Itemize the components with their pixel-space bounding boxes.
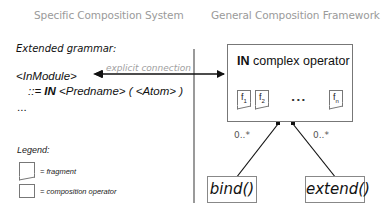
fragment-fn[interactable]: fn	[329, 90, 343, 105]
grammar-rule-lhs: <InModule>	[16, 70, 77, 82]
in-complex-operator-box[interactable]: IN complex operator f1 f2 ... fn	[227, 44, 353, 122]
legend-title: Legend:	[17, 145, 50, 155]
grammar-title: Extended grammar:	[16, 43, 116, 54]
multiplicity-extend: 0..*	[313, 130, 329, 140]
heading-general-composition-framework: General Composition Framework	[211, 9, 380, 21]
section-divider	[193, 49, 195, 203]
fragment-f2[interactable]: f2	[255, 90, 269, 105]
heading-specific-composition-system: Specific Composition System	[34, 9, 184, 21]
legend-composition-operator-label: = composition operator	[40, 187, 117, 196]
fragment-f1[interactable]: f1	[237, 90, 251, 105]
extend-operator-box[interactable]: extend()	[305, 176, 365, 203]
operator-keyword: IN	[237, 54, 250, 68]
legend-fragment-icon	[19, 162, 35, 176]
grammar-rule-body: <Predname> ( <Atom> )	[56, 85, 183, 97]
legend-fragment-label: = fragment	[40, 167, 76, 176]
explicit-connection-label: explicit connection	[106, 63, 191, 73]
fragment-ellipsis: ...	[291, 91, 307, 104]
grammar-rule-prefix: ::=	[28, 85, 44, 97]
operator-title: IN complex operator	[237, 54, 350, 68]
grammar-ellipsis: ...	[17, 101, 27, 113]
legend-composition-operator-icon	[19, 184, 35, 198]
operator-label: complex operator	[250, 54, 350, 68]
multiplicity-bind: 0..*	[234, 130, 250, 140]
grammar-rule-keyword: IN	[44, 85, 56, 97]
bind-operator-box[interactable]: bind()	[207, 176, 257, 203]
grammar-rule-rhs: ::= IN <Predname> ( <Atom> )	[28, 85, 183, 97]
